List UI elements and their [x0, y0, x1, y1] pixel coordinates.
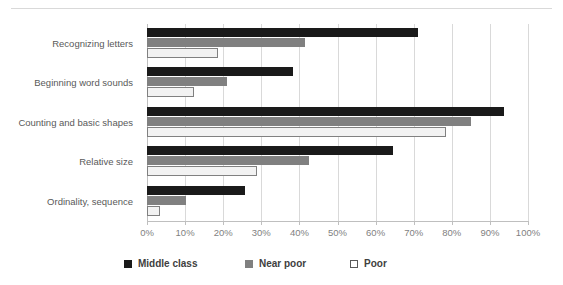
- bar-middle-class: [147, 67, 293, 76]
- top-divider: [11, 8, 552, 9]
- legend-item[interactable]: Middle class: [124, 257, 197, 271]
- bar-group: [147, 28, 528, 63]
- bar-poor: [147, 48, 218, 58]
- legend-swatch-icon: [124, 260, 132, 268]
- bar-group: [147, 107, 528, 142]
- bar-poor: [147, 87, 194, 97]
- legend-label: Middle class: [138, 257, 197, 271]
- bar-middle-class: [147, 186, 245, 195]
- bar-poor: [147, 206, 160, 216]
- x-tick-label: 10%: [165, 227, 205, 239]
- x-tick-label: 30%: [241, 227, 281, 239]
- legend-item[interactable]: Poor: [350, 257, 387, 271]
- x-axis-tick-labels: 0%10%20%30%40%50%60%70%80%90%100%: [0, 227, 563, 241]
- category-axis-labels: Recognizing lettersBeginning word sounds…: [0, 24, 141, 221]
- tick-10%: [185, 221, 186, 225]
- legend-label: Near poor: [259, 257, 306, 271]
- category-label: Beginning word sounds: [34, 77, 133, 88]
- x-tick-label: 20%: [203, 227, 243, 239]
- plot-area: [147, 24, 528, 221]
- legend-swatch-icon: [245, 260, 253, 268]
- category-label: Relative size: [79, 156, 133, 167]
- tick-0%: [147, 221, 148, 225]
- x-tick-label: 60%: [356, 227, 396, 239]
- chart-legend: Middle classNear poorPoor: [0, 257, 563, 275]
- tick-30%: [261, 221, 262, 225]
- tick-90%: [490, 221, 491, 225]
- x-tick-label: 70%: [394, 227, 434, 239]
- gridline-100%: [528, 24, 529, 221]
- category-label: Ordinality, sequence: [47, 196, 133, 207]
- bar-group: [147, 146, 528, 181]
- bar-group: [147, 67, 528, 102]
- tick-100%: [528, 221, 529, 225]
- legend-label: Poor: [364, 257, 387, 271]
- bar-chart: Recognizing lettersBeginning word sounds…: [0, 0, 563, 285]
- legend-item[interactable]: Near poor: [245, 257, 306, 271]
- x-tick-label: 50%: [318, 227, 358, 239]
- category-label: Counting and basic shapes: [18, 117, 133, 128]
- tick-60%: [376, 221, 377, 225]
- bar-near-poor: [147, 77, 227, 86]
- tick-50%: [338, 221, 339, 225]
- bar-group: [147, 186, 528, 221]
- x-tick-label: 90%: [470, 227, 510, 239]
- bar-poor: [147, 127, 446, 137]
- x-tick-label: 0%: [127, 227, 167, 239]
- tick-80%: [452, 221, 453, 225]
- tick-70%: [414, 221, 415, 225]
- bar-near-poor: [147, 156, 309, 165]
- x-tick-label: 40%: [279, 227, 319, 239]
- bar-middle-class: [147, 107, 504, 116]
- bar-poor: [147, 166, 257, 176]
- bar-near-poor: [147, 38, 305, 47]
- x-tick-label: 100%: [508, 227, 548, 239]
- bar-middle-class: [147, 28, 418, 37]
- bar-near-poor: [147, 117, 471, 126]
- tick-40%: [299, 221, 300, 225]
- tick-20%: [223, 221, 224, 225]
- bar-middle-class: [147, 146, 393, 155]
- x-tick-label: 80%: [432, 227, 472, 239]
- category-label: Recognizing letters: [52, 38, 133, 49]
- legend-swatch-icon: [350, 260, 358, 268]
- bar-near-poor: [147, 196, 186, 205]
